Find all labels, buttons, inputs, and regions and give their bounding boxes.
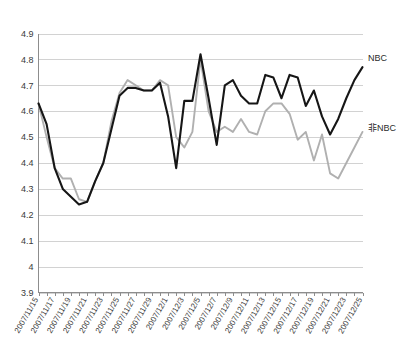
chart-canvas: 4.94.84.74.64.54.44.34.24.143.9 2007/11/… [0,0,400,351]
legend-label-nbc: NBC [368,53,388,63]
y-tick-label: 4.5 [21,132,34,142]
y-tick-label: 4.6 [21,106,34,116]
y-tick-label: 4.4 [21,158,34,168]
chart-legend: NBC非NBC [368,53,397,133]
y-tick-label: 4.1 [21,236,34,246]
gridlines [39,35,363,294]
y-tick-label: 4.7 [21,81,34,91]
line-chart: 4.94.84.74.64.54.44.34.24.143.9 2007/11/… [0,0,400,351]
data-series [39,54,363,204]
y-tick-label: 4.9 [21,29,34,39]
y-tick-label: 4.2 [21,210,34,220]
series-line-non-nbc [39,59,363,201]
y-axis-tick-labels: 4.94.84.74.64.54.44.34.24.143.9 [21,29,34,298]
x-axis-tick-labels: 2007/11/152007/11/172007/11/192007/11/21… [13,296,365,336]
series-line-nbc [39,54,363,204]
y-tick-label: 4.3 [21,184,34,194]
y-tick-label: 4.8 [21,55,34,65]
legend-label-non-nbc: 非NBC [368,122,397,133]
y-tick-label: 4 [28,262,33,272]
